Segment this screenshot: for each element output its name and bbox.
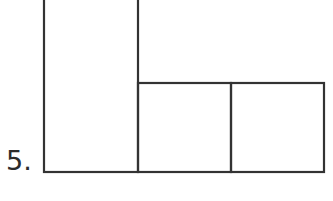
middle-square (138, 83, 231, 172)
right-square (231, 83, 324, 172)
tall-rectangle (44, 0, 138, 172)
composite-rectangles-figure (0, 0, 333, 201)
